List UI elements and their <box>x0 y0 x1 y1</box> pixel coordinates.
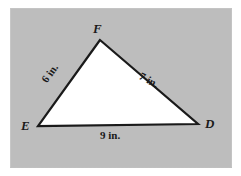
vertex-label-d: D <box>205 117 214 130</box>
triangle-shape <box>0 0 241 176</box>
geometry-figure: F E D 6 in. 7 in. 9 in. <box>0 0 241 176</box>
triangle-polygon <box>38 40 198 126</box>
vertex-label-e: E <box>21 119 30 132</box>
side-length-label-ed: 9 in. <box>100 130 120 141</box>
vertex-label-f: F <box>93 22 102 35</box>
